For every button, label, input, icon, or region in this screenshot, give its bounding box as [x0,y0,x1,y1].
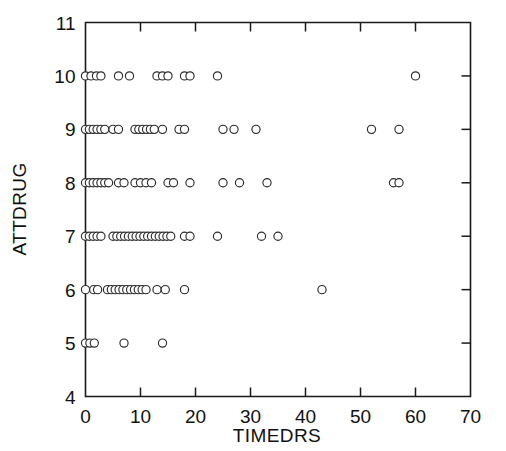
data-point [367,125,375,133]
y-tick-label: 8 [65,173,76,194]
data-point [395,125,403,133]
data-point [101,125,109,133]
x-tick-label: 20 [185,406,206,427]
x-tick-label: 0 [80,406,91,427]
data-point [114,125,122,133]
x-tick-label: 30 [240,406,261,427]
x-axis-title: TIMEDRS [233,425,321,446]
y-tick-label: 10 [54,66,75,87]
y-tick-label: 4 [65,387,76,408]
data-point [395,179,403,187]
data-point [257,232,265,240]
y-tick-label: 5 [65,333,76,354]
x-tick-label: 50 [350,406,371,427]
data-point [219,179,227,187]
data-point [235,179,243,187]
x-tick-label: 60 [405,406,426,427]
plot-canvas: 010203040506070 4567891011 TIMEDRS ATTDR… [0,0,506,451]
data-point [161,286,169,294]
data-point [180,125,188,133]
data-point [142,286,150,294]
data-point [94,286,102,294]
x-tick-label: 40 [295,406,316,427]
data-point [186,232,194,240]
data-point [164,72,172,80]
data-point [180,286,188,294]
data-point [120,179,128,187]
data-point [318,286,326,294]
data-point [167,232,175,240]
x-tick-label: 70 [460,406,481,427]
data-point-markers [81,72,419,347]
data-point [169,179,177,187]
data-point [153,286,161,294]
data-point [125,72,133,80]
data-point [411,72,419,80]
y-tick-label: 7 [65,226,76,247]
data-point [274,232,282,240]
y-tick-label: 6 [65,280,76,301]
x-tick-label: 10 [130,406,151,427]
data-point [186,72,194,80]
data-point [105,179,113,187]
data-point [213,232,221,240]
data-point [97,72,105,80]
y-axis-ticks [86,76,471,343]
data-point [90,339,98,347]
data-point [252,125,260,133]
x-axis-tick-labels: 010203040506070 [80,406,481,427]
data-point [158,339,166,347]
data-point [230,125,238,133]
data-point [81,286,89,294]
data-point [158,125,166,133]
data-point [147,179,155,187]
y-axis-tick-labels: 4567891011 [54,13,76,408]
y-axis-title: ATTDRUG [9,162,30,255]
data-point [97,232,105,240]
data-point [186,179,194,187]
data-point [213,72,221,80]
data-point [263,179,271,187]
data-point [219,125,227,133]
data-point [114,72,122,80]
y-tick-label: 9 [65,119,76,140]
data-point [120,339,128,347]
y-tick-label: 11 [56,13,76,34]
scatter-plot-figure: 010203040506070 4567891011 TIMEDRS ATTDR… [0,0,506,451]
data-point [150,125,158,133]
